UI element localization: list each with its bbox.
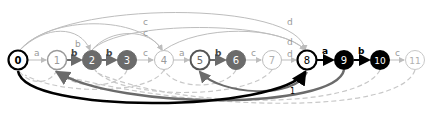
node-9: 9 — [334, 50, 354, 70]
svg-text:b: b — [71, 48, 78, 58]
node-2: 2 — [83, 51, 102, 70]
svg-text:d: d — [287, 49, 293, 59]
top-arcs — [20, 13, 305, 51]
svg-text:5: 5 — [197, 55, 203, 66]
svg-text:11: 11 — [409, 56, 420, 66]
svg-text:2: 2 — [359, 58, 363, 66]
svg-text:7: 7 — [269, 55, 275, 66]
node-6: 6 — [227, 51, 246, 70]
svg-text:a: a — [179, 48, 185, 58]
svg-text:b: b — [358, 46, 365, 56]
svg-text:9: 9 — [341, 55, 347, 66]
node-11: 11 — [406, 51, 425, 70]
svg-text:c: c — [143, 48, 148, 58]
svg-text:4: 4 — [161, 55, 167, 66]
svg-text:b: b — [215, 48, 222, 58]
svg-text:3: 3 — [124, 55, 130, 66]
node-7: 7 — [263, 51, 282, 70]
node-1: 1 — [48, 51, 67, 70]
svg-text:c: c — [395, 48, 400, 58]
svg-text:0: 0 — [15, 55, 22, 66]
svg-text:1: 1 — [323, 58, 327, 66]
svg-text:c: c — [143, 28, 148, 38]
svg-text:8: 8 — [304, 55, 310, 66]
node-3: 3 — [118, 51, 137, 70]
node-8: 8 — [298, 51, 317, 70]
svg-text:c: c — [143, 17, 148, 27]
svg-text:6: 6 — [233, 55, 239, 66]
svg-text:10: 10 — [374, 56, 386, 66]
svg-text:a: a — [34, 48, 40, 58]
edge-weight-label: 1 — [290, 87, 295, 96]
svg-text:1: 1 — [54, 55, 60, 66]
svg-text:d: d — [287, 37, 293, 47]
svg-text:a: a — [322, 46, 328, 56]
node-0: 0 — [9, 51, 28, 70]
svg-text:2: 2 — [89, 55, 95, 66]
node-10: 10 — [370, 50, 390, 70]
node-4: 4 — [155, 51, 174, 70]
svg-text:d: d — [287, 17, 293, 27]
svg-text:c: c — [251, 48, 256, 58]
node-5: 5 — [191, 51, 210, 70]
bottom-arcs — [18, 70, 344, 103]
svg-text:b: b — [106, 48, 113, 58]
automaton-diagram: b c c d d d 1 a b b c — [0, 0, 436, 119]
